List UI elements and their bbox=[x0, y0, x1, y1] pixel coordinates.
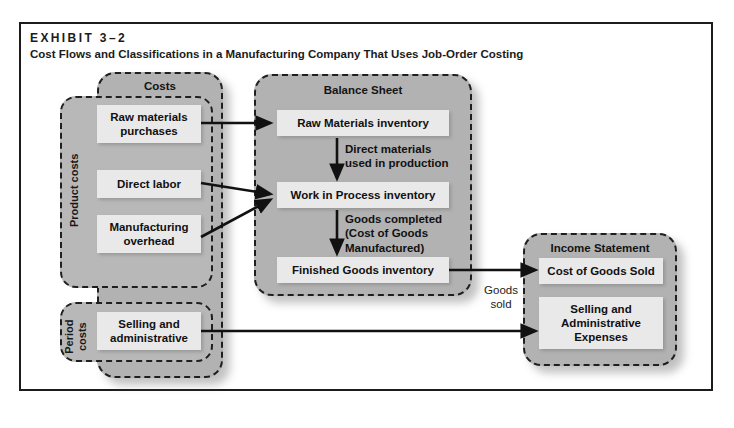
bs-item-raw-materials-inventory[interactable]: Raw Materials inventory bbox=[277, 110, 449, 136]
exhibit-title: Cost Flows and Classifications in a Manu… bbox=[30, 48, 523, 60]
flow-label-direct-materials-used: Direct materials used in production bbox=[345, 142, 449, 171]
is-item-selling-administrative-expenses[interactable]: Selling and Administrative Expenses bbox=[539, 297, 663, 349]
bs-item-finished-goods-inventory[interactable]: Finished Goods inventory bbox=[277, 257, 449, 283]
panel-income-statement-title: Income Statement bbox=[525, 242, 675, 254]
flow-label-goods-sold: Goods sold bbox=[478, 283, 524, 312]
cost-item-selling-and-administrative[interactable]: Selling and administrative bbox=[97, 312, 201, 350]
cost-item-manufacturing-overhead[interactable]: Manufacturing overhead bbox=[97, 215, 201, 253]
panel-balance-sheet-title: Balance Sheet bbox=[256, 84, 470, 96]
exhibit-label: EXHIBIT 3–2 bbox=[30, 31, 127, 45]
is-item-cost-of-goods-sold[interactable]: Cost of Goods Sold bbox=[539, 258, 663, 284]
bs-item-work-in-process-inventory[interactable]: Work in Process inventory bbox=[277, 182, 449, 208]
exhibit-diagram: EXHIBIT 3–2 Cost Flows and Classificatio… bbox=[0, 0, 734, 428]
panel-costs-title: Costs bbox=[99, 80, 221, 92]
product-costs-caption: Product costs bbox=[68, 140, 81, 240]
flow-label-goods-completed: Goods completed (Cost of Goods Manufactu… bbox=[345, 212, 442, 255]
period-costs-caption: Period costs bbox=[63, 307, 88, 367]
cost-item-direct-labor[interactable]: Direct labor bbox=[97, 170, 201, 198]
cost-item-raw-materials-purchases[interactable]: Raw materials purchases bbox=[97, 105, 201, 143]
